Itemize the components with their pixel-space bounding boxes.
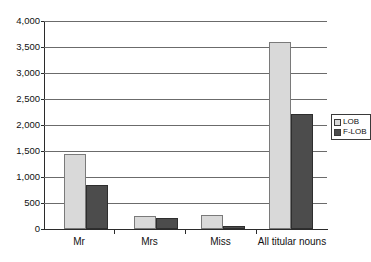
y-tick-label-2000: 2,000 (0, 120, 40, 130)
x-tick-label-mr: Mr (44, 236, 114, 248)
x-axis-separator-3 (256, 229, 257, 234)
x-tick-label-mrs: Mrs (114, 236, 185, 248)
bar-chart: 4,000 3,500 3,000 2,500 2,000 1,500 1,00… (0, 0, 371, 262)
bar-mr-lob (64, 154, 86, 229)
y-tick-label-1500: 1,500 (0, 146, 40, 156)
legend-swatch-lob-icon (334, 119, 341, 126)
x-axis-separator-1 (114, 229, 115, 234)
legend-swatch-flob-icon (334, 129, 341, 136)
y-tick-label-1000: 1,000 (0, 172, 40, 182)
bar-mr-flob (86, 185, 108, 229)
y-tick-label-3000: 3,000 (0, 68, 40, 78)
y-tick-label-500: 500 (0, 198, 40, 208)
bar-mrs-lob (134, 216, 156, 229)
legend-item-flob: F-LOB (334, 127, 367, 137)
x-axis-line (44, 229, 328, 230)
plot-area (44, 21, 327, 229)
legend: LOB F-LOB (331, 114, 371, 140)
x-axis-separator-2 (185, 229, 186, 234)
legend-label-lob: LOB (343, 118, 359, 126)
bar-mrs-flob (156, 218, 178, 229)
y-tick-label-4000: 4,000 (0, 16, 40, 26)
bar-all-titular-nouns-flob (291, 114, 313, 229)
x-tick-label-all-titular-nouns: All titular nouns (256, 236, 328, 248)
y-tick-label-2500: 2,500 (0, 94, 40, 104)
y-tick-label-0: 0 (0, 224, 40, 234)
x-tick-label-miss: Miss (185, 236, 256, 248)
bar-miss-flob (223, 226, 245, 229)
bar-miss-lob (201, 215, 223, 229)
bar-all-titular-nouns-lob (269, 42, 291, 229)
gridline-4000 (44, 21, 327, 22)
legend-item-lob: LOB (334, 117, 367, 127)
y-tick-label-3500: 3,500 (0, 42, 40, 52)
y-axis-tick-labels: 4,000 3,500 3,000 2,500 2,000 1,500 1,00… (0, 0, 40, 262)
legend-label-flob: F-LOB (343, 128, 367, 136)
